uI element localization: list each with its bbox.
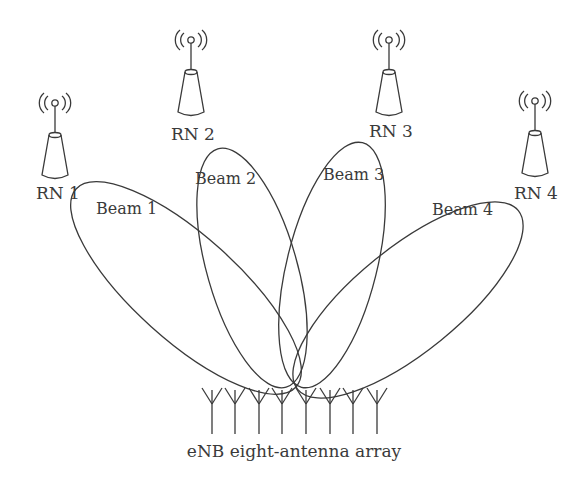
relay-node-2: RN 2 (171, 30, 215, 144)
beam-4-lobe (265, 170, 551, 430)
beam-4-label: Beam 4 (432, 200, 493, 219)
relay-node-1-label: RN 1 (36, 183, 80, 203)
antenna-element-icon (343, 388, 363, 434)
antenna-element-icon (367, 388, 387, 434)
beam-1-label: Beam 1 (96, 199, 157, 218)
antenna-element-icon (320, 388, 340, 434)
beam-2-label: Beam 2 (195, 169, 256, 188)
relay-node-3-label: RN 3 (369, 121, 413, 141)
antenna-array-label: eNB eight-antenna array (187, 441, 402, 461)
relay-tower-icon (373, 30, 404, 116)
relay-node-3: RN 3 (369, 30, 413, 141)
relay-node-4: RN 4 (514, 91, 558, 203)
antenna-element-icon (202, 388, 222, 434)
antenna-element-icon (296, 388, 316, 434)
relay-node-1: RN 1 (36, 93, 80, 203)
relay-tower-icon (519, 91, 550, 177)
beam-1-lobe (41, 150, 331, 425)
relay-tower-icon (175, 30, 206, 116)
antenna-element-icon (225, 388, 245, 434)
beam-3-label: Beam 3 (323, 165, 384, 184)
relay-node-2-label: RN 2 (171, 124, 215, 144)
enb-antenna-array (202, 388, 387, 434)
beams (41, 132, 551, 430)
relay-tower-icon (39, 93, 70, 179)
beamforming-diagram: Beam 1 Beam 2 Beam 3 Beam 4 RN 1 (0, 0, 584, 492)
antenna-element-icon (249, 388, 269, 434)
relay-node-4-label: RN 4 (514, 183, 558, 203)
